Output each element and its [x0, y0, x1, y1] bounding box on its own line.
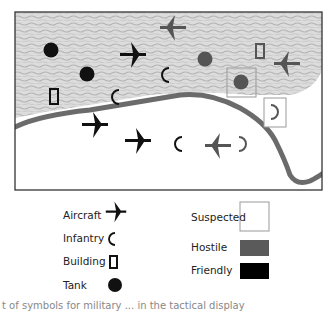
- infantry-icon: [109, 233, 115, 245]
- building-icon: [110, 256, 117, 268]
- legend-label-hostile: Hostile: [191, 241, 227, 253]
- tank-icon[interactable]: [198, 52, 213, 67]
- tank-icon: [108, 278, 122, 292]
- tank-icon[interactable]: [234, 75, 249, 90]
- friendly-swatch: [240, 263, 269, 279]
- tank-icon[interactable]: [80, 67, 95, 82]
- hostile-swatch: [240, 240, 269, 256]
- figure-caption: t of symbols for military ... in the tac…: [2, 300, 245, 312]
- tank-icon[interactable]: [44, 43, 59, 58]
- legend-label-tank: Tank: [63, 279, 87, 291]
- legend-symbols: [106, 202, 126, 292]
- aircraft-icon: [106, 202, 126, 222]
- legend-label-aircraft: Aircraft: [63, 209, 101, 221]
- legend-label-infantry: Infantry: [63, 232, 104, 244]
- legend-label-building: Building: [63, 255, 106, 267]
- suspected-box: [264, 98, 286, 127]
- legend-label-friendly: Friendly: [191, 264, 232, 276]
- legend-label-suspected: Suspected: [191, 211, 246, 223]
